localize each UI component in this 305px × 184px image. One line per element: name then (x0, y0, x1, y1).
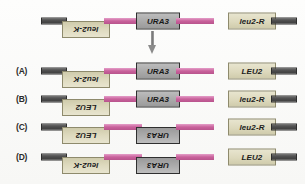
backbone-segment-right (176, 68, 214, 74)
backbone-segment-right (176, 18, 214, 24)
backbone-segment-right (176, 96, 214, 102)
gene-box-middle: URA3 (136, 91, 180, 108)
construct-row: (B) LEU2 URA3 leu2-R (0, 88, 305, 110)
gene-box-right: leu2-R (228, 119, 276, 136)
row-label: (C) (16, 123, 27, 132)
gene-box-right: LEU2 (228, 63, 276, 80)
right-terminal-bar (271, 124, 297, 131)
gene-box-left: leu2-K (62, 71, 110, 88)
gene-box-left: leu2-K (62, 21, 110, 38)
right-terminal-bar (271, 154, 297, 161)
gene-box-middle: URA3 (136, 13, 180, 30)
backbone-segment-right (176, 154, 214, 160)
gene-box-middle: URA3 (136, 127, 180, 144)
gene-box-right: leu2-R (228, 13, 276, 30)
arrow-head (148, 45, 156, 54)
backbone-segment-right (176, 124, 214, 130)
gene-box-left: LEU2 (62, 127, 110, 144)
down-arrow-icon (148, 31, 157, 55)
gene-box-middle: URA3 (136, 63, 180, 80)
gene-box-right: LEU2 (228, 149, 276, 166)
row-label: (A) (16, 67, 27, 76)
gene-box-left: LEU2 (62, 99, 110, 116)
gene-box-middle: URA3 (136, 157, 180, 174)
right-terminal-bar (271, 96, 297, 103)
right-terminal-bar (271, 18, 297, 25)
construct-row: (D) leu2-K URA3 LEU2 (0, 146, 305, 168)
row-label: (D) (16, 153, 27, 162)
construct-row: leu2-K URA3 leu2-R (0, 10, 305, 32)
row-label: (B) (16, 95, 27, 104)
right-terminal-bar (271, 68, 297, 75)
construct-row: (A) leu2-K URA3 LEU2 (0, 60, 305, 82)
recombination-diagram: leu2-K URA3 leu2-R (A) leu2-K URA3 LEU2 … (0, 0, 305, 184)
construct-row: (C) LEU2 URA3 leu2-R (0, 116, 305, 138)
gene-box-left: leu2-K (62, 157, 110, 174)
gene-box-right: leu2-R (228, 91, 276, 108)
